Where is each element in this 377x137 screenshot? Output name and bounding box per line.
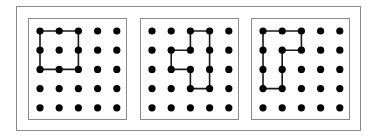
closed-path-stepped-loop	[171, 31, 209, 89]
grid-dot	[336, 85, 343, 92]
grid-dot	[148, 104, 155, 111]
grid-dot	[336, 47, 343, 54]
grid-dot	[113, 47, 120, 54]
grid-dot	[206, 66, 213, 73]
grid-dot	[317, 47, 324, 54]
grid-dot	[75, 66, 82, 73]
grid-dot	[259, 104, 266, 111]
grid-dot	[168, 104, 175, 111]
grid-dot	[225, 66, 232, 73]
grid-dot	[113, 66, 120, 73]
grid-dot	[206, 27, 213, 34]
grid-dot	[298, 27, 305, 34]
grid-dot	[75, 104, 82, 111]
grid-dot	[336, 27, 343, 34]
grid-dot	[279, 85, 286, 92]
grid-dot	[317, 104, 324, 111]
grid-dot	[36, 27, 43, 34]
grid-dot	[36, 85, 43, 92]
grid-dot	[206, 47, 213, 54]
grid-dot	[94, 104, 101, 111]
grid-dot	[187, 47, 194, 54]
grid-dot	[113, 27, 120, 34]
grid-dot	[75, 85, 82, 92]
grid-dot	[187, 104, 194, 111]
grid-dot	[187, 66, 194, 73]
grid-dot	[168, 66, 175, 73]
grid-figure	[252, 19, 349, 119]
grid-dot	[56, 85, 63, 92]
grid-dot	[94, 66, 101, 73]
grid-dot	[36, 47, 43, 54]
grid-dot	[298, 104, 305, 111]
grid-dot	[148, 66, 155, 73]
grid-dot	[36, 104, 43, 111]
grid-figure	[141, 19, 238, 119]
grid-dot	[259, 85, 266, 92]
grid-dot	[94, 85, 101, 92]
grid-dot	[113, 104, 120, 111]
grid-dot	[94, 47, 101, 54]
grid-dot	[317, 85, 324, 92]
grid-dot	[225, 47, 232, 54]
grid-dot	[56, 66, 63, 73]
grid-dot	[259, 27, 266, 34]
grid-dot	[75, 27, 82, 34]
grid-dot	[298, 66, 305, 73]
grid-dot	[317, 66, 324, 73]
grid-dot	[148, 27, 155, 34]
grid-dot	[279, 66, 286, 73]
grid-dot	[336, 66, 343, 73]
grid-dot	[317, 27, 324, 34]
panel-2	[140, 18, 239, 120]
grid-dot	[279, 27, 286, 34]
grid-dot	[148, 85, 155, 92]
grid-dot	[148, 47, 155, 54]
panel-3	[251, 18, 350, 120]
grid-dot	[225, 85, 232, 92]
grid-dot	[336, 104, 343, 111]
closed-path-hook-loop	[263, 31, 301, 89]
grid-dot	[75, 47, 82, 54]
grid-dot	[259, 66, 266, 73]
grid-dot	[94, 27, 101, 34]
grid-dot	[187, 85, 194, 92]
grid-dot	[259, 47, 266, 54]
grid-dot	[206, 85, 213, 92]
grid-dot	[225, 104, 232, 111]
grid-dot	[36, 66, 43, 73]
grid-dot	[168, 27, 175, 34]
grid-dot	[279, 47, 286, 54]
grid-dot	[279, 104, 286, 111]
grid-dot	[206, 104, 213, 111]
grid-dot	[298, 85, 305, 92]
grid-dot	[298, 47, 305, 54]
panel-1	[28, 18, 127, 120]
grid-dot	[168, 85, 175, 92]
grid-dot	[225, 27, 232, 34]
grid-figure	[29, 19, 126, 119]
grid-dot	[56, 104, 63, 111]
grid-dot	[113, 85, 120, 92]
grid-dot	[187, 27, 194, 34]
grid-dot	[56, 47, 63, 54]
grid-dot	[168, 47, 175, 54]
grid-dot	[56, 27, 63, 34]
